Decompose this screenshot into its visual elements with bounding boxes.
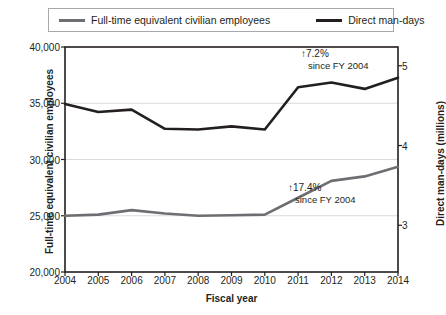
annotation-line-1: ↑17.4% bbox=[288, 182, 321, 193]
annotation-line-2: since FY 2004 bbox=[301, 60, 369, 72]
annotation-line-2: since FY 2004 bbox=[288, 194, 356, 206]
annotation-fte-change: ↑17.4% since FY 2004 bbox=[288, 182, 356, 206]
annotation-line-1: ↑7.2% bbox=[301, 48, 329, 59]
annotation-direct-man-days-change: ↑7.2% since FY 2004 bbox=[301, 48, 369, 72]
